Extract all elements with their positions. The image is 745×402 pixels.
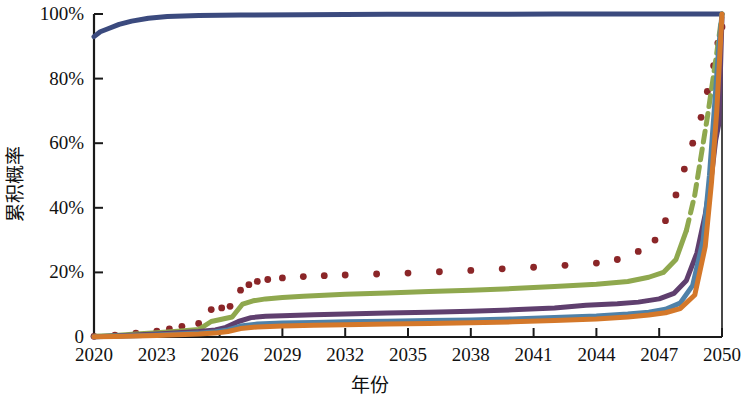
x-axis-title: 年份	[0, 370, 739, 397]
series-group	[91, 14, 726, 340]
data-marker	[652, 237, 659, 244]
axes-group	[94, 14, 722, 337]
data-marker	[698, 114, 705, 121]
data-marker	[673, 191, 680, 198]
x-axis-tick-label: 2044	[566, 345, 626, 364]
x-axis-tick-label: 2026	[190, 345, 250, 364]
data-marker	[237, 287, 244, 294]
data-marker	[208, 306, 215, 313]
x-axis-tick-label: 2038	[441, 345, 501, 364]
data-marker	[321, 272, 328, 279]
series-line	[94, 14, 722, 337]
data-marker	[227, 303, 234, 310]
x-axis-tick-label: 2023	[127, 345, 187, 364]
data-marker	[562, 262, 569, 269]
data-marker	[593, 260, 600, 267]
data-marker	[689, 140, 696, 147]
data-marker	[614, 256, 621, 263]
data-marker	[254, 278, 261, 285]
series-line	[94, 17, 722, 336]
x-axis-tick-label: 2029	[252, 345, 312, 364]
y-axis-title-wrapper: 累积概率	[0, 30, 34, 330]
data-marker	[530, 264, 537, 271]
x-axis-tick-label: 2035	[378, 345, 438, 364]
series-line	[94, 14, 722, 337]
x-axis-tick-label: 2047	[629, 345, 689, 364]
data-marker	[681, 166, 688, 173]
data-marker	[662, 217, 669, 224]
data-marker	[467, 267, 474, 274]
data-marker	[300, 273, 307, 280]
data-marker	[635, 248, 642, 255]
data-marker	[279, 274, 286, 281]
data-marker	[342, 272, 349, 279]
y-axis-tick-label: 100%	[14, 4, 84, 23]
x-axis-tick-label: 2020	[64, 345, 124, 364]
y-axis-title: 累积概率	[0, 109, 27, 259]
x-axis-tick-label: 2050	[692, 345, 745, 364]
data-marker	[264, 276, 271, 283]
x-axis-tick-label: 2032	[315, 345, 375, 364]
series-line	[94, 14, 722, 37]
data-marker	[405, 270, 412, 277]
data-marker	[499, 265, 506, 272]
data-marker	[246, 281, 253, 288]
x-axis-tick-label: 2041	[504, 345, 564, 364]
data-marker	[218, 305, 225, 312]
data-marker	[373, 271, 380, 278]
data-marker	[436, 268, 443, 275]
